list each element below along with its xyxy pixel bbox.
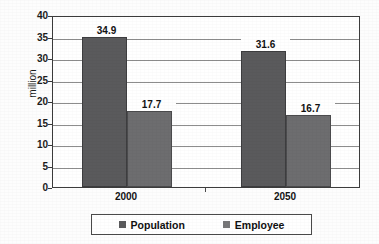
- y-axis-tick-label: 20: [26, 97, 48, 107]
- legend-item-employee[interactable]: Employee: [223, 219, 285, 231]
- x-axis-tick-label: 2050: [240, 191, 330, 202]
- legend-swatch-icon: [119, 221, 126, 228]
- value-label: 31.6: [241, 39, 290, 50]
- y-axis-tick-label: 10: [26, 140, 48, 150]
- bar-employee-2050: [286, 115, 331, 187]
- bar-chart: million 0510152025303540 34.917.731.616.…: [0, 0, 379, 244]
- legend-item-label: Employee: [235, 219, 285, 231]
- bar-employee-2000: [127, 111, 172, 187]
- x-axis-tick-labels: 20002050: [52, 191, 360, 207]
- y-axis-tick-label: 35: [26, 33, 48, 43]
- y-axis-tick-label: 30: [26, 54, 48, 64]
- legend-item-population[interactable]: Population: [119, 219, 185, 231]
- x-axis-tick-label: 2000: [81, 191, 171, 202]
- y-axis-tick-label: 40: [26, 11, 48, 21]
- legend-item-label: Population: [131, 219, 185, 231]
- y-axis-tick-label: 15: [26, 119, 48, 129]
- value-label: 16.7: [286, 103, 335, 114]
- y-axis-tick-label: 0: [26, 183, 48, 193]
- chart-legend: PopulationEmployee: [91, 214, 312, 235]
- legend-swatch-icon: [223, 221, 230, 228]
- plot-area: 34.917.731.616.7: [52, 16, 360, 188]
- y-axis-tick-label: 25: [26, 76, 48, 86]
- value-label: 34.9: [82, 25, 131, 36]
- bar-population-2050: [241, 51, 286, 187]
- bar-population-2000: [82, 37, 127, 187]
- value-label: 17.7: [127, 99, 176, 110]
- y-axis-tick-mark: [48, 188, 52, 189]
- y-axis-tick-labels: 0510152025303540: [26, 16, 48, 188]
- y-axis-tick-label: 5: [26, 162, 48, 172]
